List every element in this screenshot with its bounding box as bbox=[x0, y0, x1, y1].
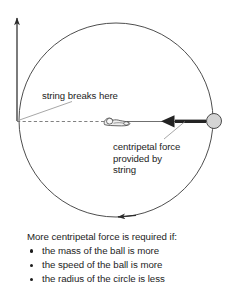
centripetal-force-label: centripetal force provided by string bbox=[113, 141, 223, 176]
ball bbox=[207, 114, 222, 129]
centripetal-force-label-line-2: provided by bbox=[113, 153, 223, 165]
list-item: the radius of the circle is less bbox=[27, 272, 227, 286]
list-item-label: the mass of the ball is more bbox=[42, 245, 159, 256]
centripetal-force-diagram: string breaks here centripetal force pro… bbox=[0, 0, 232, 296]
list-item-label: the radius of the circle is less bbox=[42, 273, 165, 284]
centripetal-force-arrow-icon bbox=[161, 115, 206, 127]
bullet-dot-icon bbox=[30, 264, 33, 267]
summary-block: More centripetal force is required if: t… bbox=[27, 231, 227, 287]
bullet-dot-icon bbox=[30, 249, 33, 252]
list-item: the mass of the ball is more bbox=[27, 244, 227, 258]
hand-icon bbox=[104, 118, 130, 126]
centripetal-force-label-line-1: centripetal force bbox=[113, 141, 223, 153]
string-breaks-here-label: string breaks here bbox=[42, 90, 118, 102]
summary-bullet-list: the mass of the ball is more the speed o… bbox=[27, 244, 227, 287]
list-item-label: the speed of the ball is more bbox=[42, 259, 162, 270]
bullet-dot-icon bbox=[30, 278, 33, 281]
summary-heading: More centripetal force is required if: bbox=[27, 231, 227, 243]
centripetal-force-label-line-3: string bbox=[113, 164, 223, 176]
string-breaks-leader-line bbox=[20, 102, 73, 121]
list-item: the speed of the ball is more bbox=[27, 258, 227, 272]
direction-of-motion-arrow-icon bbox=[118, 215, 136, 217]
